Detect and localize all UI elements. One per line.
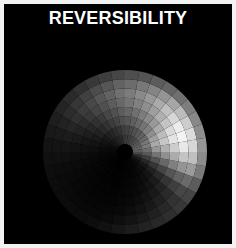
heatmap-cell [178,152,188,163]
heatmap-cell [61,141,71,152]
heatmap-cell [197,138,207,152]
heatmap-cell [116,196,125,206]
heatmap-cell [43,138,53,152]
heatmap-cell [111,70,125,80]
heatmap-cell [71,152,81,161]
heatmap-cell [111,224,125,234]
page-title: REVERSIBILITY [4,7,232,29]
heatmap-cell [125,205,136,215]
heatmap-cell [61,152,71,163]
heatmap-cell [188,139,198,152]
heatmap-cell [125,98,134,108]
heatmap-cell [52,152,62,165]
plot-canvas: REVERSIBILITY [4,4,232,244]
heatmap-cell [71,143,81,152]
heatmap-cell [197,152,207,166]
heatmap-cell [169,143,179,152]
heatmap-cell [112,79,125,89]
heatmap-cell [178,141,188,152]
heatmap-cell [125,224,139,234]
heatmap-cell [125,79,138,89]
figure-container: REVERSIBILITY [0,0,236,248]
heatmap-cell [52,139,62,152]
heatmap-cell [169,152,179,161]
heatmap-cell [114,88,125,98]
heatmap-cell [125,70,139,80]
heatmap-cell [125,88,136,98]
polar-heatmap [4,4,232,244]
heatmap-cell [43,152,53,166]
heatmap-cell [188,152,198,165]
heatmap-cell [125,215,138,225]
heatmap-cell [114,205,125,215]
heatmap-cell [116,98,125,108]
heatmap-cell [125,196,134,206]
heatmap-sector-group [43,70,207,234]
heatmap-cell [112,215,125,225]
